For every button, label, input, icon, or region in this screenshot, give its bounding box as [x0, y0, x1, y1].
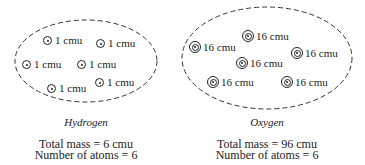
hydrogen-atom-icon — [95, 78, 104, 87]
hydrogen-atom-icon — [43, 36, 52, 45]
atom-mass-label: 16 cmu — [295, 77, 328, 88]
atom-mass-label: 1 cmu — [107, 77, 134, 88]
atom-mass-label: 1 cmu — [89, 59, 116, 70]
atom-mass-label: 1 cmu — [55, 35, 82, 46]
oxygen-stats: Total mass = 96 cmu Number of atoms = 6 — [216, 139, 319, 161]
oxygen-atom-icon — [242, 30, 254, 42]
hydrogen-atom-icon — [77, 60, 86, 69]
atom: 1 cmu — [43, 35, 82, 46]
atom: 16 cmu — [207, 76, 254, 88]
hydrogen-atom-icon — [22, 60, 31, 69]
hydrogen-stats: Total mass = 6 cmu Number of atoms = 6 — [35, 139, 138, 161]
hydrogen-num-atoms: Number of atoms = 6 — [35, 150, 138, 161]
hydrogen-atom-icon — [96, 39, 105, 48]
oxygen-atom-icon — [281, 76, 293, 88]
atom-mass-label: 1 cmu — [34, 59, 61, 70]
oxygen-atom-icon — [207, 76, 219, 88]
atom-mass-label: 16 cmu — [305, 48, 338, 59]
atom-mass-label: 1 cmu — [59, 83, 86, 94]
atom-mass-label: 16 cmu — [250, 58, 283, 69]
oxygen-atom-icon — [236, 57, 248, 69]
atom: 16 cmu — [236, 57, 283, 69]
oxygen-atom-icon — [189, 41, 201, 53]
atom: 1 cmu — [77, 59, 116, 70]
atom: 16 cmu — [281, 76, 328, 88]
atom-mass-label: 1 cmu — [108, 38, 135, 49]
atom: 16 cmu — [242, 30, 289, 42]
atom-mass-label: 16 cmu — [203, 42, 236, 53]
atom: 1 cmu — [95, 77, 134, 88]
atom: 16 cmu — [291, 47, 338, 59]
atom: 1 cmu — [96, 38, 135, 49]
atom: 16 cmu — [189, 41, 236, 53]
atom: 1 cmu — [47, 83, 86, 94]
atom: 1 cmu — [22, 59, 61, 70]
atom-mass-label: 16 cmu — [221, 77, 254, 88]
hydrogen-atom-icon — [47, 84, 56, 93]
oxygen-label: Oxygen — [250, 116, 284, 128]
oxygen-atom-icon — [291, 47, 303, 59]
hydrogen-label: Hydrogen — [64, 116, 108, 128]
oxygen-num-atoms: Number of atoms = 6 — [216, 150, 319, 161]
atom-mass-label: 16 cmu — [256, 31, 289, 42]
